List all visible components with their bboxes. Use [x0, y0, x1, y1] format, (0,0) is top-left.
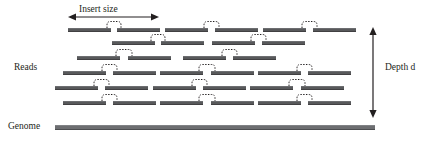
- figure-canvas: Insert size Reads Genome Depth d: [0, 0, 427, 141]
- read-segment: [263, 28, 306, 32]
- read-segment: [301, 86, 344, 90]
- read-segment: [113, 101, 156, 105]
- read-segment: [161, 41, 204, 45]
- read-segment: [112, 41, 155, 45]
- read-segment: [250, 86, 293, 90]
- read-segment: [55, 86, 98, 90]
- read-segment: [183, 56, 226, 60]
- depth-arrow: [367, 27, 379, 118]
- read-segment: [105, 86, 148, 90]
- read-segment: [308, 101, 351, 105]
- depth-symbol: d: [411, 62, 416, 72]
- read-segment: [68, 28, 111, 32]
- read-segment: [262, 41, 305, 45]
- read-segment: [160, 101, 203, 105]
- read-segment: [211, 101, 254, 105]
- read-segment: [233, 56, 276, 60]
- read-segment: [212, 41, 255, 45]
- read-segment: [153, 86, 196, 90]
- read-segment: [160, 71, 203, 75]
- read-segment: [258, 101, 301, 105]
- read-segment: [63, 101, 106, 105]
- read-segment: [77, 56, 120, 60]
- read-segment: [63, 71, 106, 75]
- depth-label-text: Depth: [385, 62, 408, 72]
- read-segment: [165, 28, 208, 32]
- genome-bar: [55, 125, 375, 130]
- read-segment: [113, 71, 156, 75]
- read-segment: [215, 28, 258, 32]
- read-segment: [203, 86, 246, 90]
- depth-label: Depth d: [385, 63, 415, 73]
- insert-size-arrow: [68, 11, 159, 23]
- read-segment: [117, 28, 160, 32]
- read-segment: [258, 71, 301, 75]
- reads-label: Reads: [14, 63, 37, 73]
- read-segment: [313, 28, 356, 32]
- read-segment: [128, 56, 171, 60]
- read-segment: [211, 71, 254, 75]
- genome-label: Genome: [8, 122, 40, 132]
- read-segment: [308, 71, 351, 75]
